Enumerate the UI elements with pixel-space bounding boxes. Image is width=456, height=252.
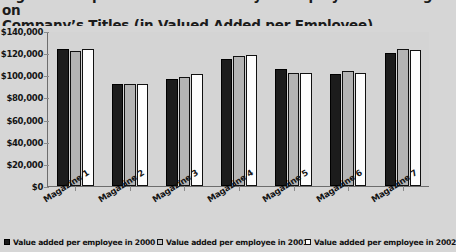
bar[interactable] <box>112 84 124 186</box>
legend-swatch-icon <box>4 239 10 245</box>
bar[interactable] <box>397 49 409 186</box>
bar[interactable] <box>288 73 300 186</box>
x-axis-label-cell: Magazine 6 <box>320 194 375 234</box>
chart-area: $140,000$120,000$100,000$80,000$60,000$4… <box>0 26 433 231</box>
bar[interactable] <box>82 49 94 186</box>
legend-item[interactable]: Value added per employee in 2001 <box>157 238 308 247</box>
legend-swatch-icon <box>157 239 163 245</box>
x-axis-label-cell: Magazine 3 <box>156 194 211 234</box>
x-axis-label-cell: Magazine 2 <box>102 194 157 234</box>
legend-swatch-icon <box>305 239 311 245</box>
bar[interactable] <box>330 74 342 186</box>
bar-group <box>321 31 376 186</box>
legend-item[interactable]: Value added per employee in 2000 <box>4 238 155 247</box>
bar[interactable] <box>275 69 287 186</box>
y-axis-tick-label: $20,000 <box>6 160 43 170</box>
y-axis-tick-label: $80,000 <box>6 93 43 103</box>
y-axis-tick <box>44 187 49 188</box>
x-axis-label-cell: Magazine 1 <box>47 194 102 234</box>
bar[interactable] <box>221 59 233 186</box>
bar[interactable] <box>246 55 258 186</box>
bar-group <box>266 31 321 186</box>
legend-label: Value added per employee in 2001 <box>166 238 308 247</box>
x-axis-label-cell: Magazine 5 <box>265 194 320 234</box>
y-axis-tick-label: $120,000 <box>1 49 43 59</box>
y-axis-tick-label: $0 <box>32 182 43 192</box>
bar-group <box>48 31 103 186</box>
bar-group <box>157 31 212 186</box>
x-axis-tick <box>239 186 240 191</box>
y-axis-tick-label: $140,000 <box>1 27 43 37</box>
bar-group <box>212 31 267 186</box>
x-axis-label-cell: Magazine 7 <box>374 194 429 234</box>
bar[interactable] <box>410 50 422 186</box>
bar[interactable] <box>57 49 69 186</box>
bar[interactable] <box>233 56 245 186</box>
x-axis-tick <box>403 186 404 191</box>
x-axis-tick <box>75 186 76 191</box>
chart-legend: Value added per employee in 2000 Value a… <box>0 234 433 250</box>
y-axis-labels: $140,000$120,000$100,000$80,000$60,000$4… <box>0 32 43 187</box>
y-axis-tick-label: $40,000 <box>6 138 43 148</box>
legend-label: Value added per employee in 2000 <box>13 238 155 247</box>
legend-label: Value added per employee in 2002 <box>314 238 456 247</box>
bar[interactable] <box>342 71 354 186</box>
x-axis-label-cell: Magazine 4 <box>211 194 266 234</box>
x-axis-tick <box>348 186 349 191</box>
bar[interactable] <box>70 51 82 186</box>
y-axis-tick-label: $60,000 <box>6 116 43 126</box>
plot-area <box>47 32 429 187</box>
bar[interactable] <box>166 79 178 186</box>
chart-title-line-1: Figure: Comparison of Productivity of Em… <box>2 0 435 18</box>
x-axis-tick <box>294 186 295 191</box>
bar-group <box>103 31 158 186</box>
plot-wrapper <box>47 32 429 187</box>
bar[interactable] <box>385 53 397 186</box>
x-axis-tick <box>130 186 131 191</box>
y-axis-tick-label: $100,000 <box>1 71 43 81</box>
bar-group <box>375 31 430 186</box>
bar-groups <box>48 31 430 186</box>
x-axis-tick <box>184 186 185 191</box>
x-axis-labels: Magazine 1Magazine 2Magazine 3Magazine 4… <box>47 194 429 234</box>
legend-item[interactable]: Value added per employee in 2002 <box>305 238 456 247</box>
